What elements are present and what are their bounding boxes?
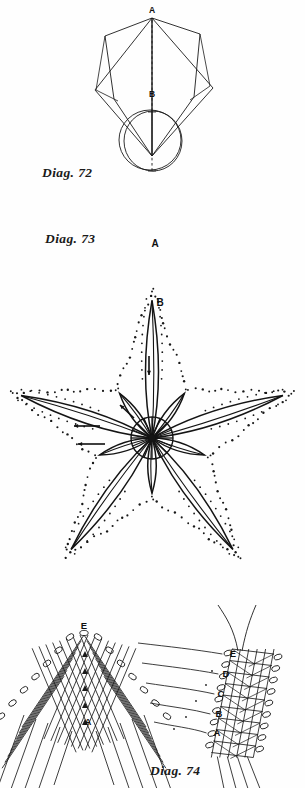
outline-dot	[182, 375, 184, 377]
outline-dot	[141, 342, 143, 344]
outline-dot	[104, 520, 106, 522]
lattice-thread	[2, 676, 64, 768]
outline-dot	[139, 503, 141, 505]
outline-dot	[202, 388, 204, 390]
outline-dot	[73, 391, 75, 393]
outline-dot	[174, 511, 176, 513]
outline-dot	[74, 553, 76, 555]
outline-dot	[275, 405, 277, 407]
outline-dot	[95, 457, 97, 459]
outline-dot	[71, 530, 73, 532]
outline-dot	[205, 410, 207, 412]
outline-dot	[161, 334, 163, 336]
point-label-a-73: A	[151, 238, 158, 249]
outline-dot	[117, 387, 119, 389]
outline-dot	[247, 396, 249, 398]
arrow-up-centre	[120, 405, 134, 418]
outline-dot	[12, 392, 14, 394]
caption-diag-74: Diag. 74	[150, 763, 200, 779]
outline-dot	[138, 321, 140, 323]
outline-dot	[79, 511, 81, 513]
outline-dot	[238, 398, 240, 400]
outline-dot	[240, 557, 242, 559]
outline-dot	[277, 404, 279, 406]
outline-dot	[115, 389, 117, 391]
working-thread	[142, 663, 218, 674]
outline-dot	[152, 499, 154, 501]
outline-dot	[124, 491, 126, 493]
outline-dot	[264, 392, 266, 394]
working-thread	[154, 722, 207, 733]
outline-dot	[162, 322, 164, 324]
outline-dot	[132, 509, 134, 511]
diagram-73-drawing: A B	[0, 236, 305, 596]
outline-dot	[159, 309, 161, 311]
picot-loop	[8, 698, 18, 707]
point-label-b-72: B	[149, 89, 155, 99]
fold-edge-left	[96, 36, 118, 101]
outline-dot	[226, 548, 228, 550]
outline-dot	[161, 369, 163, 371]
picot-loop	[128, 672, 138, 681]
outline-dot	[236, 420, 238, 422]
outline-dot	[161, 360, 163, 362]
point-label-d-right: D	[223, 668, 230, 679]
outline-dot	[222, 502, 224, 504]
outline-dot	[50, 414, 52, 416]
trailing-thread	[227, 757, 240, 788]
picot-loop-right	[257, 734, 267, 742]
outline-dot	[110, 390, 112, 392]
outline-dot	[69, 551, 71, 553]
outline-dot	[146, 501, 148, 503]
outline-dot	[109, 513, 111, 515]
picot-loop-right	[269, 676, 279, 684]
outline-dot	[159, 316, 161, 318]
outline-dot	[87, 476, 89, 478]
outline-dot	[199, 520, 201, 522]
trailing-thread	[237, 757, 253, 788]
outline-dot	[172, 349, 174, 351]
outline-dot	[216, 490, 218, 492]
outline-dot	[160, 325, 162, 327]
outline-dot	[114, 505, 116, 507]
outline-dot	[87, 451, 89, 453]
outline-dot	[126, 363, 128, 365]
column-lattice-detail	[138, 605, 283, 788]
outline-dot	[141, 334, 143, 336]
ink-speck	[195, 700, 197, 702]
outline-dot	[247, 424, 249, 426]
outline-dot	[106, 530, 108, 532]
outline-dot	[122, 367, 124, 369]
outline-dot	[142, 378, 144, 380]
outline-dot	[86, 540, 88, 542]
outline-dot	[220, 543, 222, 545]
outline-dot	[215, 481, 217, 483]
outline-dot	[17, 399, 19, 401]
outline-dot	[80, 547, 82, 549]
outline-dot	[242, 390, 244, 392]
outline-dot	[290, 393, 292, 395]
outline-dot	[29, 390, 31, 392]
outline-dot	[21, 389, 23, 391]
outline-dot	[237, 435, 239, 437]
outline-dot	[38, 392, 40, 394]
lattice-warp	[228, 649, 249, 758]
outline-dot	[185, 388, 187, 390]
outline-dot	[61, 389, 63, 391]
outline-dot	[76, 443, 78, 445]
arrow-left-upper	[74, 424, 100, 428]
picot-loop	[0, 712, 6, 721]
outline-dot	[84, 484, 86, 486]
outline-dot	[16, 397, 18, 399]
working-thread	[146, 683, 214, 694]
outline-dot	[98, 493, 100, 495]
outline-dot	[228, 517, 230, 519]
outline-dot	[230, 401, 232, 403]
outline-dot	[98, 410, 100, 412]
outline-dot	[252, 422, 254, 424]
outline-dot	[213, 407, 215, 409]
outline-dot	[269, 407, 271, 409]
outline-dot	[37, 414, 39, 416]
outline-dot	[74, 549, 76, 551]
outline-dot	[244, 418, 246, 420]
